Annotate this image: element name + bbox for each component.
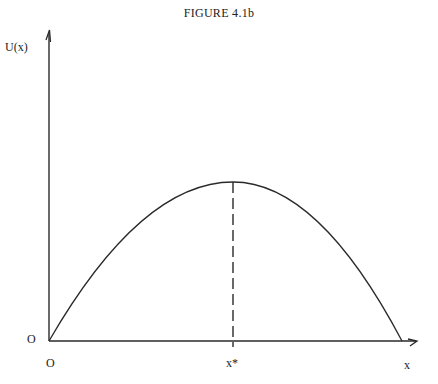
x-axis-arrow-icon [408, 339, 417, 346]
chart-plot-area [0, 0, 438, 384]
y-axis-arrow-icon [46, 30, 51, 42]
y-axis-label: U(x) [5, 40, 28, 55]
x-axis-label: x [404, 358, 410, 373]
x-origin-label: O [46, 356, 55, 371]
y-origin-label: O [27, 332, 36, 347]
x-star-label: x* [226, 356, 238, 371]
utility-curve [49, 182, 402, 341]
